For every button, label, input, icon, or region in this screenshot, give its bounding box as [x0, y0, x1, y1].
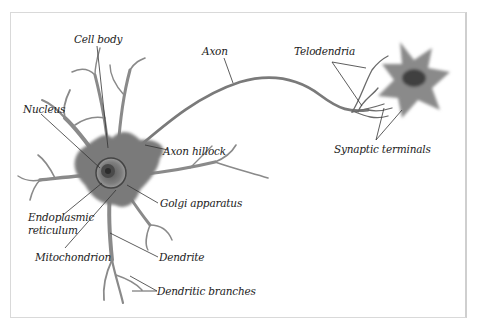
label-dendrite: Dendrite	[159, 251, 204, 263]
target-cell	[378, 42, 450, 118]
label-axon: Axon	[202, 45, 228, 57]
label-golgi-apparatus: Golgi apparatus	[160, 197, 242, 209]
label-axon-hillock: Axon hillock	[163, 145, 226, 157]
label-mitochondrion: Mitochondrion	[35, 251, 111, 263]
label-telodendria: Telodendria	[294, 45, 355, 57]
label-synaptic-terminals: Synaptic terminals	[334, 143, 431, 155]
label-endoplasmic-reticulum: Endoplasmic	[28, 211, 94, 223]
label-endoplasmic-reticulum-line2: reticulum	[28, 224, 78, 236]
label-nucleus: Nucleus	[23, 103, 65, 115]
label-dendritic-branches: Dendritic branches	[157, 285, 256, 297]
axon-fiber	[135, 78, 368, 150]
neuron-illustration	[0, 0, 479, 327]
label-cell-body: Cell body	[74, 33, 122, 45]
